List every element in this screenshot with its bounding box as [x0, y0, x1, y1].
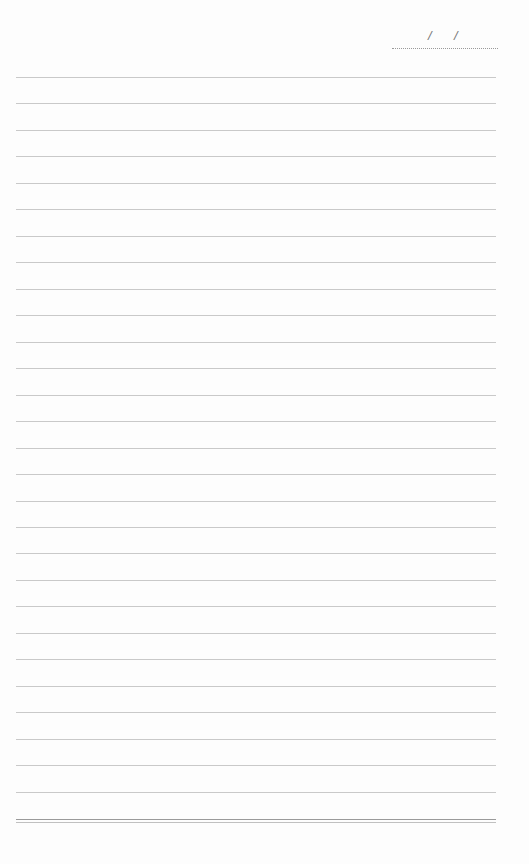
ruled-line: [16, 77, 496, 78]
ruled-line: [16, 474, 496, 475]
date-separator-1: /: [428, 28, 432, 43]
ruled-line: [16, 342, 496, 343]
ruled-line: [16, 739, 496, 740]
ruled-line: [16, 633, 496, 634]
ruled-line: [16, 421, 496, 422]
ruled-line: [16, 236, 496, 237]
ruled-line: [16, 501, 496, 502]
ruled-line: [16, 315, 496, 316]
ruled-line: [16, 156, 496, 157]
ruled-line: [16, 183, 496, 184]
ruled-line: [16, 262, 496, 263]
ruled-line: [16, 712, 496, 713]
date-field[interactable]: / /: [392, 28, 498, 49]
ruled-line: [16, 527, 496, 528]
ruled-line: [16, 130, 496, 131]
ruled-line: [16, 289, 496, 290]
date-separator-2: /: [454, 28, 458, 43]
ruled-line: [16, 395, 496, 396]
ruled-line: [16, 553, 496, 554]
bottom-rule: [16, 819, 496, 823]
ruled-line: [16, 606, 496, 607]
ruled-line: [16, 103, 496, 104]
ruled-line: [16, 765, 496, 766]
ruled-line: [16, 792, 496, 793]
ruled-line: [16, 580, 496, 581]
ruled-line: [16, 686, 496, 687]
ruled-line: [16, 209, 496, 210]
ruled-line: [16, 659, 496, 660]
ruled-line: [16, 448, 496, 449]
ruled-line: [16, 368, 496, 369]
